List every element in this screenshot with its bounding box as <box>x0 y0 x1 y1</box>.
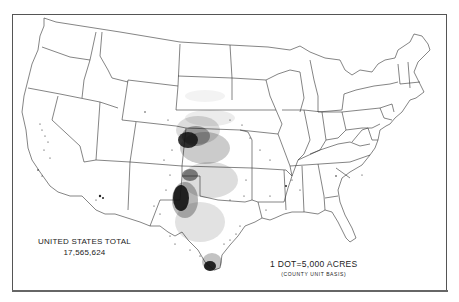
map-legend: 1 DOT=5,000 ACRES (COUNTY UNIT BASIS) <box>270 259 358 278</box>
us-total-value: 17,565,624 <box>38 247 131 258</box>
legend-dot-value: 1 DOT=5,000 ACRES <box>270 259 358 270</box>
us-total-caption: UNITED STATES TOTAL <box>38 236 131 247</box>
legend-basis: (COUNTY UNIT BASIS) <box>270 270 358 278</box>
us-total-label: UNITED STATES TOTAL 17,565,624 <box>38 236 131 258</box>
